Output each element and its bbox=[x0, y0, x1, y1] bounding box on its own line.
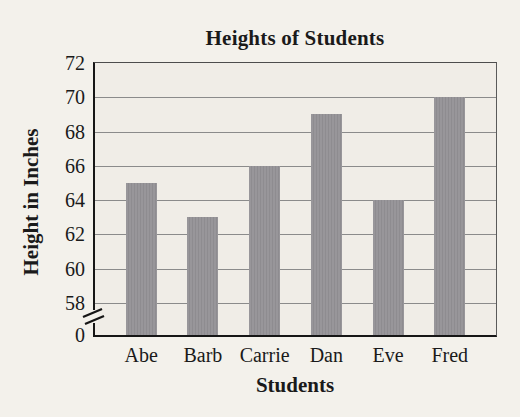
y-tick-label: 0 bbox=[28, 323, 85, 347]
x-axis-ticks: AbeBarbCarrieDanEveFred bbox=[95, 343, 496, 369]
bar-fred bbox=[434, 97, 465, 335]
chart-page: Heights of Students Height in Inches 058… bbox=[0, 0, 520, 417]
y-tick-label: 70 bbox=[28, 85, 85, 109]
bar-eve bbox=[373, 200, 404, 335]
y-tick-label: 64 bbox=[28, 188, 85, 212]
x-axis-title: Students bbox=[93, 373, 497, 398]
y-tick-label: 58 bbox=[28, 291, 85, 315]
chart-title: Heights of Students bbox=[93, 26, 497, 51]
bar-dan bbox=[311, 114, 342, 335]
x-tick-label: Fred bbox=[405, 343, 495, 367]
bar-abe bbox=[126, 183, 157, 335]
bar-barb bbox=[187, 217, 218, 335]
y-axis-ticks: 05860626466687072 bbox=[28, 63, 85, 338]
y-tick-label: 68 bbox=[28, 120, 85, 144]
bar-carrie bbox=[249, 166, 280, 335]
y-tick-label: 62 bbox=[28, 222, 85, 246]
plot-area bbox=[93, 62, 497, 337]
y-tick-label: 72 bbox=[28, 51, 85, 75]
y-tick-label: 66 bbox=[28, 154, 85, 178]
y-tick-label: 60 bbox=[28, 257, 85, 281]
axis-break-icon bbox=[81, 304, 105, 328]
